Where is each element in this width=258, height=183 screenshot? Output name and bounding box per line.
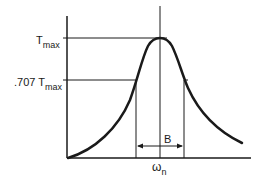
arrowhead-right-icon [177,144,183,149]
resonance-diagram: Tmax .707 Tmax B ωn [0,0,258,183]
tmax-label: Tmax [36,34,60,50]
t707-label: .707 Tmax [14,76,63,92]
bandwidth-label: B [164,133,171,145]
response-curve [68,38,242,158]
omega-n-label: ωn [152,160,166,177]
arrowhead-left-icon [137,144,143,149]
